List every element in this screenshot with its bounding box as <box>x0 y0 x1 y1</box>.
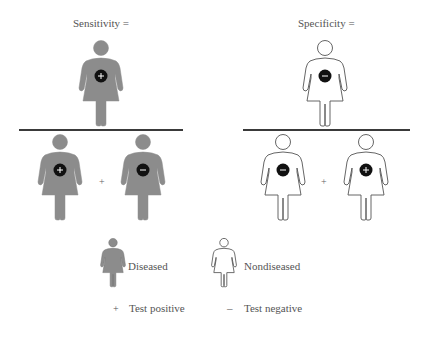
specificity-denominator-nondiseased-positive <box>343 132 389 224</box>
specificity-fraction-line <box>243 129 410 131</box>
legend-nondiseased-icon <box>211 237 237 289</box>
legend-negative-symbol: – <box>227 302 233 314</box>
sensitivity-numerator-diseased-positive <box>78 38 124 130</box>
sensitivity-title: Sensitivity = <box>73 17 129 29</box>
legend-positive-label: Test positive <box>129 302 185 314</box>
specificity-numerator-nondiseased-negative <box>302 38 348 130</box>
sensitivity-fraction-line <box>19 129 183 131</box>
legend-positive-symbol: + <box>113 303 119 314</box>
legend-diseased-icon <box>100 237 126 289</box>
specificity-denominator-nondiseased-negative <box>260 132 306 224</box>
sensitivity-plus-operator: + <box>99 176 105 187</box>
specificity-title: Specificity = <box>298 17 355 29</box>
legend-nondiseased-label: Nondiseased <box>244 260 300 272</box>
sensitivity-denominator-diseased-positive <box>37 132 83 224</box>
specificity-plus-operator: + <box>321 176 327 187</box>
legend-diseased-label: Diseased <box>128 260 168 272</box>
sensitivity-denominator-diseased-negative <box>120 132 166 224</box>
legend-negative-label: Test negative <box>244 302 302 314</box>
